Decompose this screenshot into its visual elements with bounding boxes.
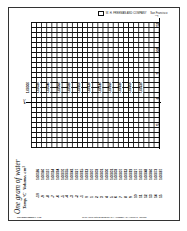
volume-tick: 1.00020: [37, 82, 40, 94]
volume-tick: 1.00080: [68, 82, 71, 94]
volume-axis-line: [26, 102, 161, 103]
temp-cell: -7: [52, 195, 55, 198]
book-credit: To be used with ELEMENTARY ALGEBRA by Ha…: [82, 216, 146, 218]
temp-cell: 8: [125, 196, 128, 198]
volume-cell: 1.00160: [42, 169, 45, 180]
publisher-name: W. H. FREEMAN AND COMPANY: [106, 12, 147, 15]
volume-cell: 1.00012: [125, 169, 128, 180]
temp-cell: 10: [135, 194, 138, 198]
temp-cell: 4: [106, 196, 109, 198]
volume-cell: 1.00000: [106, 169, 109, 180]
temp-cell: 13: [150, 194, 153, 198]
temp-cell: 12: [145, 194, 148, 198]
temp-cell: 3: [101, 196, 104, 198]
temp-cell: -1: [81, 195, 84, 198]
volume-cell: 1.00019: [130, 169, 133, 180]
volume-column-header: Volume, cm³: [22, 166, 27, 190]
temp-cell: -6: [57, 195, 60, 198]
volume-tick: 1.00060: [58, 82, 61, 94]
volume-tick: 1.00120: [88, 82, 91, 94]
temp-cell: 9: [130, 196, 133, 198]
temp-cell: -9: [42, 195, 45, 198]
volume-cell: 1.00087: [160, 169, 163, 180]
volume-tick: 1.00160: [109, 82, 112, 94]
temp-cell: 1: [91, 196, 94, 198]
volume-tick: 1.00040: [47, 82, 50, 94]
temp-tick: 15: [155, 22, 160, 27]
volume-cell: 1.00186: [37, 169, 40, 180]
temp-cell: 11: [140, 195, 143, 199]
temp-cell: -8: [47, 195, 50, 198]
temperature-axis-line: [159, 18, 160, 149]
temperature-axis-label: T: [154, 15, 158, 17]
volume-tick: 1.00200: [129, 82, 132, 94]
volume-cell: 1.00073: [155, 169, 158, 180]
volume-cell: 1.00007: [91, 169, 94, 180]
volume-cell: 1.00114: [52, 169, 55, 180]
volume-cell: 1.00037: [140, 169, 143, 180]
volume-tick: 1.00220: [140, 82, 143, 94]
volume-cell: 1.00048: [145, 169, 148, 180]
volume-cell: 1.00027: [76, 169, 79, 180]
temp-cell: 0: [86, 196, 89, 198]
volume-cell: 1.00001: [101, 169, 104, 180]
volume-cell: 1.00015: [81, 169, 84, 180]
temp-tick: -5: [155, 122, 160, 126]
temp-cell: 2: [96, 196, 99, 198]
volume-cell: 1.00027: [135, 169, 138, 180]
temp-cell: -2: [76, 195, 79, 198]
volume-tick: 1.00180: [119, 82, 122, 94]
volume-cell: 1.00060: [150, 169, 153, 180]
volume-tick: 1.00140: [99, 82, 102, 94]
temp-tick: 5: [155, 72, 160, 74]
volume-cell: 1.00013: [86, 169, 89, 180]
temp-cell: 15: [160, 194, 163, 198]
temp-cell: -10: [37, 193, 40, 198]
temp-cell: 14: [155, 194, 158, 198]
volume-cell: 1.00003: [96, 169, 99, 180]
temp-column-header: Temp,°C: [22, 193, 27, 209]
volume-axis-label: V: [23, 99, 25, 103]
volume-cell: 1.00137: [47, 169, 50, 180]
volume-cell: 1.00094: [57, 169, 60, 180]
publisher-logo-icon: [98, 11, 104, 16]
temp-tick: 0: [155, 97, 160, 99]
table-title: One gram of water: [14, 159, 22, 214]
volume-tick: 1.00100: [78, 82, 81, 94]
publisher-city: San Francisco: [150, 12, 167, 15]
volume-tick: 1.00000: [27, 82, 30, 94]
temp-tick: 10: [155, 47, 160, 52]
transparency-number: TRANSPARENCY 4-16: [17, 216, 41, 218]
